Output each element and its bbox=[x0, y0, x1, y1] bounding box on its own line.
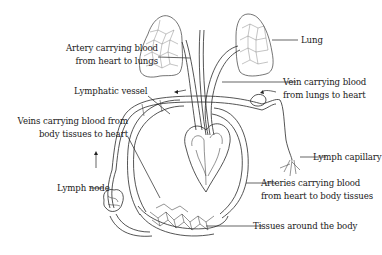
label-vein-from-lungs: Vein carrying blood from lungs to heart bbox=[283, 76, 366, 102]
label-artery-to-lungs: Artery carrying blood from heart to lung… bbox=[62, 42, 158, 68]
label-lymphatic-vessel: Lymphatic vessel bbox=[74, 85, 147, 98]
label-lymph-node: Lymph node bbox=[57, 182, 110, 195]
tissue-capillary-bed bbox=[138, 204, 228, 236]
systemic-arteries bbox=[212, 108, 248, 218]
label-line: Vein carrying blood bbox=[283, 76, 366, 89]
label-line: from heart to body tissues bbox=[261, 190, 373, 203]
label-line: Artery carrying blood bbox=[62, 42, 158, 55]
right-lung bbox=[236, 14, 273, 76]
label-tissues: Tissues around the body bbox=[253, 220, 357, 233]
label-line: Arteries carrying blood bbox=[261, 177, 373, 190]
label-line: from heart to lungs bbox=[62, 55, 158, 68]
label-line: Veins carrying blood from bbox=[4, 115, 128, 128]
label-veins-to-heart: Veins carrying blood from body tissues t… bbox=[4, 115, 128, 141]
label-lymph-capillary: Lymph capillary bbox=[313, 151, 382, 164]
label-line: from lungs to heart bbox=[283, 89, 366, 102]
lymphatic-vessel bbox=[108, 96, 262, 236]
label-line: body tissues to heart bbox=[4, 128, 128, 141]
systemic-veins bbox=[128, 100, 185, 215]
label-arteries-to-body: Arteries carrying blood from heart to bo… bbox=[261, 177, 373, 203]
pulmonary-vessels bbox=[182, 30, 240, 135]
lymph-capillary-branch bbox=[251, 94, 301, 176]
label-lung: Lung bbox=[301, 34, 323, 47]
